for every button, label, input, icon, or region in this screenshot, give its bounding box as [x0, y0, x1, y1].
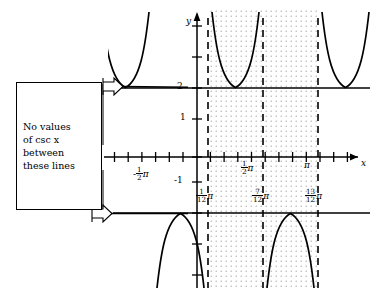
- fraction-7-12: 712: [252, 188, 263, 204]
- x-tick-label-neg-half-pi: -12π: [133, 166, 149, 182]
- arrow-head-upper: [103, 78, 123, 95]
- csc-branch-upper-2: [322, 12, 369, 88]
- fraction-half: 12: [136, 166, 143, 182]
- x-tick-label-half-pi: 12π: [241, 160, 254, 176]
- x-tick-label-13-12-pi: 1312π: [305, 188, 322, 204]
- y-tick-label-2: 2: [177, 81, 183, 91]
- x-tick-label-pi: π: [304, 160, 310, 170]
- pi-symbol: π: [248, 163, 254, 173]
- x-tick-label-7-12-pi: 712π: [252, 188, 269, 204]
- fraction-13-12: 1312: [305, 188, 316, 204]
- callout-box: No values of csc x between these lines: [16, 82, 102, 210]
- pi-symbol: π: [207, 191, 213, 201]
- y-tick-label-minus-1: -1: [174, 175, 183, 185]
- x-axis-arrowhead: [350, 154, 358, 161]
- csc-branch-upper-3: [102, 12, 149, 88]
- pi-symbol: π: [316, 191, 322, 201]
- y-axis-label: y: [186, 16, 191, 26]
- y-axis-arrowhead: [194, 12, 201, 21]
- figure-canvas: No values of csc x between these lines 2…: [0, 0, 380, 295]
- x-axis-label: x: [361, 158, 366, 168]
- pi-symbol: π: [143, 169, 149, 179]
- x-tick-label-1-12-pi: 112π: [196, 188, 213, 204]
- fraction-half: 12: [241, 160, 248, 176]
- y-tick-label-1: 1: [180, 112, 186, 122]
- pi-symbol: π: [263, 191, 269, 201]
- fraction-1-12: 112: [196, 188, 207, 204]
- callout-text: No values of csc x between these lines: [17, 120, 75, 172]
